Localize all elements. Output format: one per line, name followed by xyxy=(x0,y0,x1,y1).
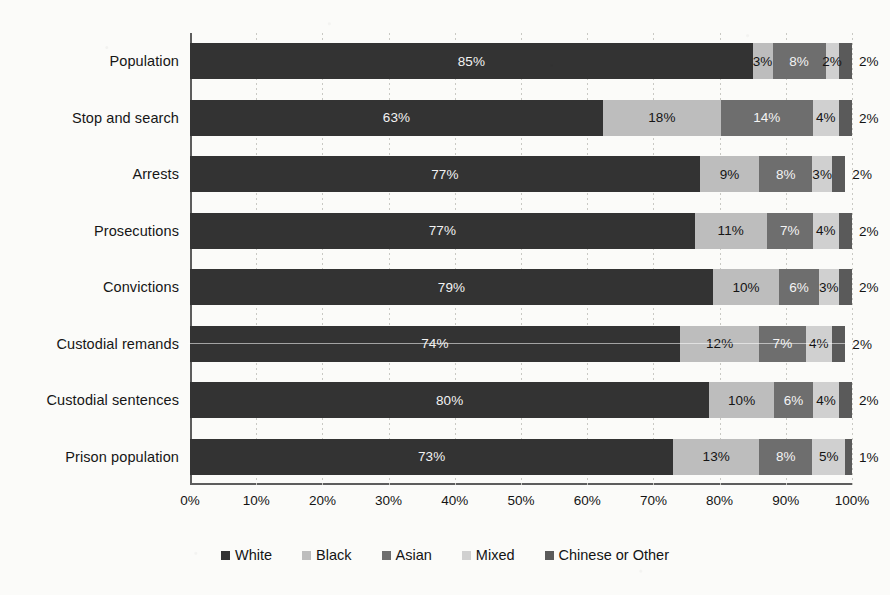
x-tick-label: 90% xyxy=(772,493,799,508)
segment-value-label: 4% xyxy=(816,393,836,408)
bar-row: Population85%3%8%2%2% xyxy=(190,43,852,79)
bar-segment-chinese-or-other: 1% xyxy=(845,439,852,475)
bar-segment-black: 10% xyxy=(709,382,774,418)
legend-swatch-icon xyxy=(302,551,311,560)
segment-value-label-outside: 2% xyxy=(859,280,879,295)
segment-value-label: 8% xyxy=(789,54,809,69)
segment-value-label: 77% xyxy=(429,223,456,238)
segment-value-label: 80% xyxy=(436,393,463,408)
segment-value-label: 18% xyxy=(648,110,675,125)
segment-value-label: 2% xyxy=(822,54,842,69)
segment-value-label: 6% xyxy=(789,280,809,295)
stacked-bar-chart: Population85%3%8%2%2%Stop and search63%1… xyxy=(0,0,890,595)
legend-swatch-icon xyxy=(382,551,391,560)
category-label: Arrests xyxy=(132,166,179,182)
bar-segment-mixed: 4% xyxy=(806,326,832,362)
x-tick-label: 60% xyxy=(574,493,601,508)
bar-segment-white: 77% xyxy=(190,156,700,192)
x-tick-label: 100% xyxy=(835,493,870,508)
legend-item-black[interactable]: Black xyxy=(302,547,351,563)
segment-value-label: 3% xyxy=(753,54,773,69)
legend-label: White xyxy=(235,547,272,563)
legend-item-chinese-or-other[interactable]: Chinese or Other xyxy=(545,547,669,563)
bar-segment-asian: 6% xyxy=(779,269,819,305)
bar-segment-mixed: 3% xyxy=(812,156,832,192)
legend-swatch-icon xyxy=(545,551,554,560)
segment-value-label: 74% xyxy=(421,336,448,351)
bar-segment-mixed: 4% xyxy=(813,382,839,418)
bar-segment-mixed: 4% xyxy=(813,213,839,249)
category-label: Prosecutions xyxy=(94,223,179,239)
bar-row: Prosecutions77%11%7%4%2% xyxy=(190,213,852,249)
bar-segment-mixed: 5% xyxy=(812,439,845,475)
x-axis-tick-labels: 0%10%20%30%40%50%60%70%80%90%100% xyxy=(190,493,852,513)
bar-segment-asian: 7% xyxy=(767,213,813,249)
bar-segment-black: 10% xyxy=(713,269,779,305)
bar-row: Stop and search63%18%14%4%2% xyxy=(190,100,852,136)
chart-legend: WhiteBlackAsianMixedChinese or Other xyxy=(0,547,890,563)
segment-value-label: 79% xyxy=(438,280,465,295)
segment-value-label: 7% xyxy=(780,223,800,238)
x-tick-label: 40% xyxy=(441,493,468,508)
segment-value-label-outside: 1% xyxy=(859,449,879,464)
bar-segment-black: 18% xyxy=(603,100,721,136)
bar-segment-mixed: 4% xyxy=(813,100,839,136)
segment-value-label: 77% xyxy=(431,167,458,182)
category-label: Population xyxy=(109,53,179,69)
segment-value-label-outside: 2% xyxy=(859,54,879,69)
segment-value-label: 14% xyxy=(753,110,780,125)
bar-segment-chinese-or-other: 2% xyxy=(832,156,845,192)
segment-value-label: 3% xyxy=(812,167,832,182)
bar-segment-white: 80% xyxy=(190,382,709,418)
segment-value-label: 4% xyxy=(816,223,836,238)
bar-segment-black: 9% xyxy=(700,156,760,192)
segment-value-label-outside: 2% xyxy=(859,110,879,125)
x-tick-label: 80% xyxy=(706,493,733,508)
segment-value-label: 3% xyxy=(819,280,839,295)
bar-segment-mixed: 2% xyxy=(826,43,839,79)
bar-segment-white: 77% xyxy=(190,213,695,249)
segment-value-label: 2% xyxy=(859,280,879,295)
segment-value-label: 85% xyxy=(458,54,485,69)
x-tick-label: 20% xyxy=(309,493,336,508)
legend-swatch-icon xyxy=(221,551,230,560)
segment-value-label: 2% xyxy=(859,54,879,69)
segment-value-label-outside: 2% xyxy=(859,223,879,238)
segment-value-label: 13% xyxy=(703,449,730,464)
bar-segment-chinese-or-other: 2% xyxy=(839,382,852,418)
x-tick-label: 30% xyxy=(375,493,402,508)
bar-row: Custodial sentences80%10%6%4%2% xyxy=(190,382,852,418)
segment-value-label: 73% xyxy=(418,449,445,464)
legend-item-white[interactable]: White xyxy=(221,547,272,563)
bar-segment-chinese-or-other: 2% xyxy=(839,269,852,305)
segment-value-label: 8% xyxy=(776,449,796,464)
category-label: Convictions xyxy=(103,279,179,295)
bar-segment-white: 79% xyxy=(190,269,713,305)
segment-value-label: 63% xyxy=(383,110,410,125)
segment-value-label: 2% xyxy=(859,393,879,408)
bar-segment-asian: 8% xyxy=(759,156,812,192)
bar-segment-black: 11% xyxy=(695,213,767,249)
segment-value-label: 9% xyxy=(720,167,740,182)
legend-label: Black xyxy=(316,547,351,563)
segment-value-label-outside: 2% xyxy=(859,393,879,408)
bar-segment-asian: 14% xyxy=(721,100,813,136)
bar-segment-chinese-or-other: 2% xyxy=(832,326,845,362)
legend-item-asian[interactable]: Asian xyxy=(382,547,432,563)
plot-area: Population85%3%8%2%2%Stop and search63%1… xyxy=(190,33,852,485)
bar-row: Convictions79%10%6%3%2% xyxy=(190,269,852,305)
bar-segment-asian: 8% xyxy=(759,439,812,475)
bar-segment-chinese-or-other: 2% xyxy=(839,213,852,249)
legend-item-mixed[interactable]: Mixed xyxy=(462,547,515,563)
category-label: Prison population xyxy=(65,449,179,465)
segment-value-label: 8% xyxy=(776,167,796,182)
segment-value-label: 4% xyxy=(816,110,836,125)
bar-segment-white: 85% xyxy=(190,43,753,79)
bar-segment-black: 13% xyxy=(673,439,759,475)
segment-value-label: 10% xyxy=(728,393,755,408)
x-tick-label: 70% xyxy=(640,493,667,508)
bar-segment-white: 63% xyxy=(190,100,603,136)
segment-value-label: 11% xyxy=(718,223,744,238)
segment-value-label: 4% xyxy=(809,336,829,351)
category-label: Custodial sentences xyxy=(47,392,179,408)
